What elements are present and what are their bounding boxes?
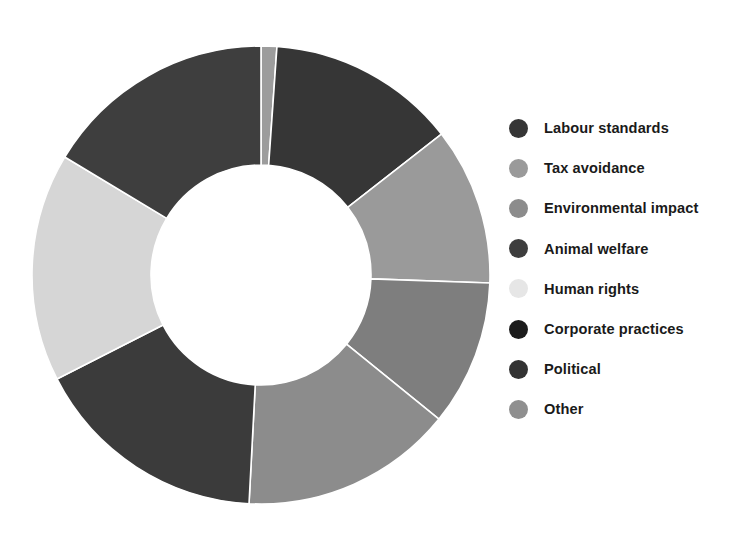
legend-item[interactable]: Corporate practices (509, 309, 724, 349)
legend-item[interactable]: Animal welfare (509, 229, 724, 269)
legend-swatch-icon (509, 199, 528, 218)
legend-item[interactable]: Tax avoidance (509, 148, 724, 188)
legend-item-label: Corporate practices (544, 321, 684, 337)
legend-swatch-icon (509, 400, 528, 419)
donut-slice-group (32, 46, 490, 504)
legend-swatch-icon (509, 239, 528, 258)
legend-swatch-icon (509, 360, 528, 379)
legend-swatch-icon (509, 159, 528, 178)
legend-item-label: Animal welfare (544, 241, 648, 257)
donut-chart-figure: Labour standardsTax avoidanceEnvironment… (0, 0, 732, 545)
legend-item[interactable]: Other (509, 389, 724, 429)
legend-item-label: Labour standards (544, 120, 669, 136)
legend-item-label: Political (544, 361, 601, 377)
legend-swatch-icon (509, 119, 528, 138)
legend-item[interactable]: Environmental impact (509, 188, 724, 228)
legend-item[interactable]: Political (509, 349, 724, 389)
legend-item-label: Human rights (544, 281, 639, 297)
legend-swatch-icon (509, 279, 528, 298)
legend-item-label: Tax avoidance (544, 160, 645, 176)
chart-legend: Labour standardsTax avoidanceEnvironment… (509, 108, 724, 430)
legend-item-label: Other (544, 401, 583, 417)
legend-item[interactable]: Human rights (509, 269, 724, 309)
legend-item[interactable]: Labour standards (509, 108, 724, 148)
legend-item-label: Environmental impact (544, 200, 698, 216)
legend-swatch-icon (509, 320, 528, 339)
